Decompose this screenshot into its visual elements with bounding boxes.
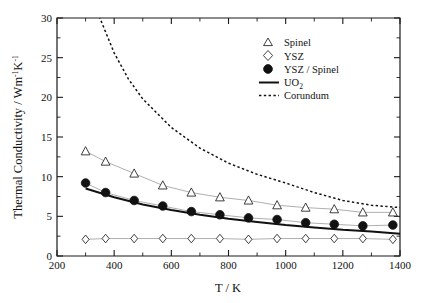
data-point-ysz-spinel: [187, 207, 196, 216]
x-tick-label: 200: [49, 259, 66, 271]
data-point-ysz-spinel: [389, 221, 398, 230]
y-tick-label: 20: [41, 91, 53, 103]
thermal-conductivity-chart: 051015202530 200400600800100012001400 T …: [0, 0, 421, 303]
x-axis-title: T / K: [215, 281, 241, 295]
legend-label-spinel: Spinel: [284, 37, 311, 48]
figure-container: 051015202530 200400600800100012001400 T …: [0, 0, 421, 303]
y-tick-label: 10: [41, 171, 53, 183]
data-point-ysz-spinel: [273, 215, 282, 224]
filled-circle-icon: [264, 65, 273, 74]
chart-background: [0, 0, 421, 303]
y-tick-label: 30: [41, 12, 53, 24]
data-point-ysz-spinel: [81, 179, 90, 188]
legend-label-uo2-text: UO: [284, 77, 300, 88]
legend-label-ysz: YSZ: [284, 51, 304, 62]
data-point-ysz-spinel: [130, 196, 139, 205]
x-tick-label: 400: [106, 259, 123, 271]
x-tick-label: 1400: [389, 259, 412, 271]
data-point-ysz-spinel: [101, 188, 110, 197]
x-tick-label: 1000: [275, 259, 298, 271]
svg-text:Thermal Conductivity / Wm-1K-1: Thermal Conductivity / Wm-1K-1: [11, 55, 25, 219]
data-point-ysz-spinel: [158, 202, 167, 211]
y-tick-label: 15: [41, 131, 53, 143]
legend-label-ysz-spinel: YSZ / Spinel: [284, 64, 339, 75]
legend-label-corundum: Corundum: [284, 90, 329, 101]
y-axis-title: Thermal Conductivity / Wm-1K-1: [11, 55, 25, 219]
data-point-ysz-spinel: [216, 210, 225, 219]
y-axis-title-k: K: [11, 62, 25, 71]
data-point-ysz-spinel: [359, 222, 368, 231]
x-tick-label: 800: [220, 259, 237, 271]
y-tick-label: 5: [47, 210, 53, 222]
y-axis-title-main: Thermal Conductivity / Wm: [11, 77, 25, 219]
data-point-ysz-spinel: [301, 218, 310, 227]
x-tick-label: 600: [163, 259, 180, 271]
y-tick-label: 25: [41, 52, 53, 64]
data-point-ysz-spinel: [330, 220, 339, 229]
y-axis-title-sup2: -1: [11, 55, 20, 61]
data-point-ysz-spinel: [244, 214, 253, 223]
x-tick-label: 1200: [332, 259, 355, 271]
